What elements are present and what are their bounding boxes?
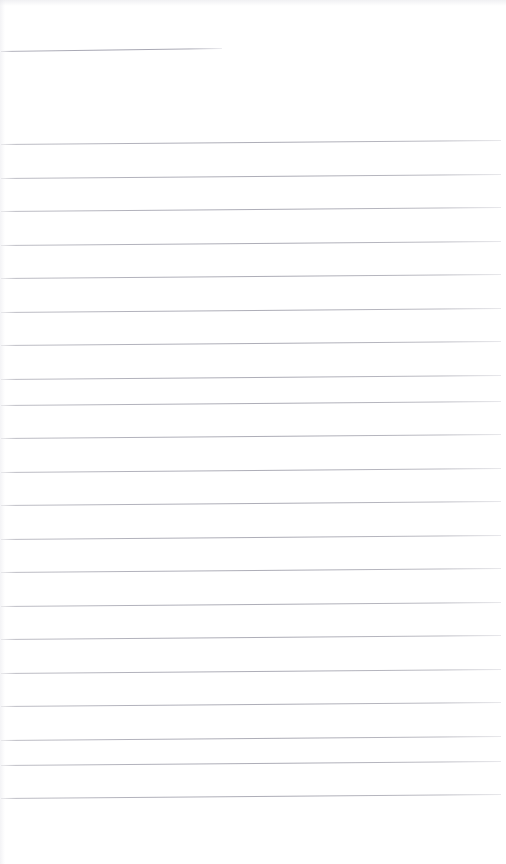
ruled-line: [1, 401, 501, 406]
ruled-line: [1, 635, 501, 640]
ruled-line: [1, 375, 501, 380]
ruled-line: [1, 535, 501, 540]
ruled-line: [1, 140, 501, 145]
ruled-line: [1, 501, 501, 506]
scanned-page: [0, 0, 506, 864]
ruled-line: [1, 568, 501, 573]
ruled-line: [1, 794, 501, 799]
ruled-line: [1, 669, 501, 674]
ruled-line: [1, 207, 501, 212]
ruled-line: [1, 602, 501, 607]
ruled-line: [1, 274, 501, 279]
ruled-line: [1, 736, 501, 741]
ruled-lines-area: [0, 0, 506, 864]
ruled-line: [1, 761, 501, 766]
ruled-line: [1, 702, 501, 707]
ruled-line: [1, 434, 501, 439]
ruled-line: [1, 174, 501, 179]
ruled-line: [1, 308, 501, 313]
ruled-line: [1, 468, 501, 473]
ruled-line: [1, 341, 501, 346]
ruled-line: [1, 241, 501, 246]
